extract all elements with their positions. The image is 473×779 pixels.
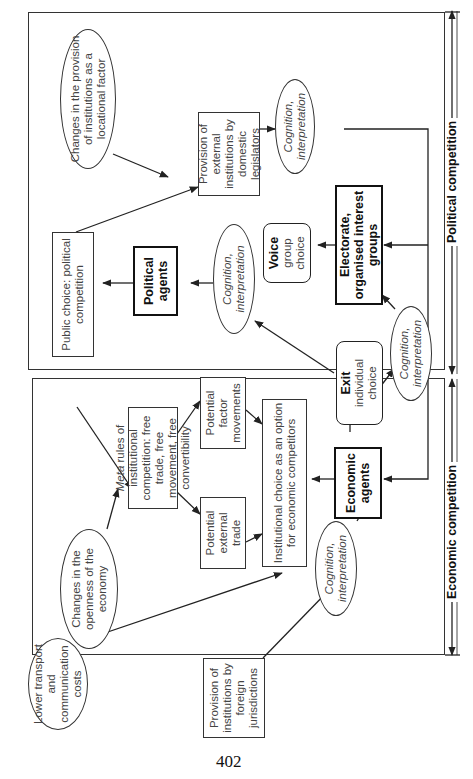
openness-node: Changes in the openness of the economy: [60, 529, 118, 649]
exit-title: Exit: [340, 372, 353, 395]
domestic-provision-node: Provision of external institutions by do…: [198, 112, 260, 196]
cognition-domestic-node: Cognition, interpretation: [275, 79, 315, 174]
cognition-political-node: Cognition, interpretation: [213, 224, 255, 334]
external-trade-node: Potential external trade: [200, 497, 246, 569]
institutional-choice-node: Institutional choice as an option for ec…: [262, 399, 307, 567]
cognition-economic-node: Cognition, interpretation: [315, 521, 357, 616]
foreign-provision-node: Provision of institutions by foreign jur…: [203, 658, 265, 738]
economic-agents-node: Economic agents: [334, 447, 382, 519]
political-agents-node: Political agents: [133, 246, 178, 316]
factor-movements-node: Potential factor movements: [200, 377, 246, 449]
exit-node: Exit individual choice: [336, 341, 383, 425]
cognition-exit-node: Cognition, interpretation: [390, 306, 432, 401]
locational-factor-node: Changes in the provision of institutions…: [60, 29, 116, 169]
voice-title: Voice: [268, 237, 281, 269]
lower-costs-node: Lower transport and communication costs: [28, 638, 88, 730]
diagram-canvas: Political competition Economic competiti…: [0, 0, 473, 779]
voice-node: Voice group choice: [263, 223, 311, 283]
economic-competition-label: Economic competition: [445, 462, 459, 602]
meta-rules-italic: Meta: [114, 466, 126, 492]
electorate-node: Electorate, organised interest groups: [335, 185, 383, 305]
page-number: 402: [216, 752, 242, 772]
meta-rules-node: Meta rules of institutional competition:…: [128, 407, 178, 509]
voice-sub: group choice: [281, 226, 307, 280]
political-competition-label: Political competition: [445, 118, 459, 246]
exit-sub: individual choice: [353, 344, 379, 422]
public-choice-node: Public choice: political competition: [52, 232, 94, 357]
